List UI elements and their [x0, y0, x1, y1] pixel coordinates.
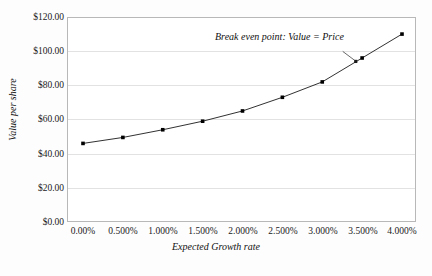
- x-tick-label: 0.500%: [108, 226, 137, 237]
- gridline: [68, 188, 415, 189]
- y-tick-label: $120.00: [0, 12, 64, 22]
- x-tick-label: 1.500%: [188, 226, 217, 237]
- x-axis-tick-labels: 0.00% 0.500% 1.000% 1.500% 2.000% 2.500%…: [0, 226, 432, 240]
- x-axis-title: Expected Growth rate: [0, 241, 432, 252]
- gridline: [68, 85, 415, 86]
- x-tick-label: 1.000%: [148, 226, 177, 237]
- x-tick-label: 4.000%: [387, 226, 416, 237]
- gridline: [68, 51, 415, 52]
- x-tick-label: 3.000%: [308, 226, 337, 237]
- chart-container: $120.00 $100.00 $80.00 $60.00 $40.00 $20…: [0, 0, 432, 276]
- gridline: [68, 119, 415, 120]
- y-axis-title: Value per share: [7, 50, 18, 170]
- x-tick-label: 2.000%: [228, 226, 257, 237]
- x-tick-label: 0.00%: [71, 226, 96, 237]
- break-even-annotation-label: Break even point: Value = Price: [215, 31, 344, 42]
- x-tick-label: 2.500%: [268, 226, 297, 237]
- y-tick-label: $20.00: [0, 183, 64, 193]
- x-tick-label: 3.500%: [348, 226, 377, 237]
- plot-area: [67, 17, 416, 222]
- gridline: [68, 154, 415, 155]
